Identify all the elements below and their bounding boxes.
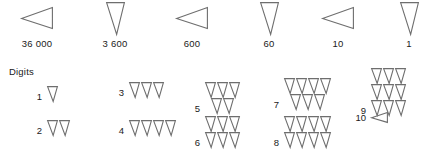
down-wedge-icon	[129, 82, 140, 98]
digit-glyph-group	[46, 86, 58, 102]
digit-glyph-group	[46, 120, 70, 136]
digit-glyph-row	[370, 112, 388, 123]
down-wedge-icon	[395, 68, 406, 84]
down-wedge-icon	[296, 132, 307, 148]
digit-entry: 6	[186, 116, 240, 148]
digit-glyph-group	[128, 120, 176, 136]
digit-entry: 10	[348, 112, 388, 123]
down-wedge-icon	[260, 2, 279, 35]
down-wedge-icon	[302, 94, 313, 110]
down-wedge-icon	[284, 132, 295, 148]
place-value-symbol	[232, 0, 306, 36]
place-value-cell: 1	[372, 0, 446, 58]
place-value-label: 600	[155, 38, 229, 50]
digit-glyph-row	[128, 120, 176, 136]
place-value-symbol	[372, 0, 446, 36]
digit-entry: 7	[265, 78, 331, 110]
down-wedge-icon	[229, 132, 240, 148]
place-value-label: 36 000	[0, 38, 74, 50]
down-wedge-icon	[296, 116, 307, 132]
down-wedge-icon	[47, 86, 58, 102]
place-value-row: 36 0003 60060060101	[0, 0, 446, 58]
digit-entry: 9	[348, 68, 406, 116]
left-wedge-icon	[176, 7, 208, 29]
place-value-label: 1	[372, 38, 446, 50]
left-wedge-icon	[322, 7, 354, 29]
digit-glyph-row	[46, 120, 70, 136]
place-value-cell: 3 600	[78, 0, 152, 58]
down-wedge-icon	[129, 120, 140, 136]
digit-glyph-row	[370, 84, 406, 100]
digit-number-label: 6	[186, 138, 200, 148]
down-wedge-icon	[308, 78, 319, 94]
down-wedge-icon	[314, 94, 325, 110]
digit-glyph-group	[204, 82, 240, 114]
digit-glyph-group	[370, 68, 406, 116]
down-wedge-icon	[141, 82, 152, 98]
down-wedge-icon	[400, 2, 419, 35]
down-wedge-icon	[229, 82, 240, 98]
digit-number-label: 1	[28, 92, 42, 102]
digit-glyph-group	[370, 112, 388, 123]
digit-number-label: 3	[110, 88, 124, 98]
down-wedge-icon	[320, 132, 331, 148]
digit-entry: 5	[186, 82, 240, 114]
down-wedge-icon	[141, 120, 152, 136]
digit-glyph-group	[283, 78, 331, 110]
down-wedge-icon	[205, 82, 216, 98]
down-wedge-icon	[106, 2, 125, 35]
digit-entry: 1	[28, 86, 58, 102]
digit-glyph-row	[370, 68, 406, 84]
place-value-symbol	[78, 0, 152, 36]
down-wedge-icon	[217, 132, 228, 148]
down-wedge-icon	[217, 82, 228, 98]
place-value-label: 10	[301, 38, 375, 50]
down-wedge-icon	[284, 116, 295, 132]
down-wedge-icon	[290, 94, 301, 110]
digit-glyph-group	[204, 116, 240, 148]
down-wedge-icon	[205, 132, 216, 148]
left-wedge-icon	[21, 7, 53, 29]
down-wedge-icon	[217, 116, 228, 132]
digits-heading: Digits	[9, 66, 34, 77]
down-wedge-icon	[205, 116, 216, 132]
digit-entry: 8	[265, 116, 331, 148]
down-wedge-icon	[153, 120, 164, 136]
down-wedge-icon	[223, 98, 234, 114]
digit-number-label: 7	[265, 100, 279, 110]
cuneiform-numeral-chart: 36 0003 60060060101 Digits 12345678910	[0, 0, 446, 159]
place-value-cell: 36 000	[0, 0, 74, 58]
down-wedge-icon	[371, 84, 382, 100]
place-value-symbol	[301, 0, 375, 36]
digit-glyph-group	[283, 116, 331, 148]
digits-section: Digits 12345678910	[0, 60, 446, 159]
digit-number-label: 10	[348, 113, 366, 123]
down-wedge-icon	[320, 116, 331, 132]
place-value-cell: 60	[232, 0, 306, 58]
down-wedge-icon	[47, 120, 58, 136]
place-value-symbol	[155, 0, 229, 36]
digit-glyph-row	[283, 116, 331, 132]
digit-glyph-row	[289, 94, 325, 110]
place-value-symbol	[0, 0, 74, 36]
down-wedge-icon	[308, 116, 319, 132]
digit-glyph-row	[204, 82, 240, 98]
digit-glyph-row	[283, 78, 331, 94]
down-wedge-icon	[229, 116, 240, 132]
down-wedge-icon	[395, 84, 406, 100]
left-wedge-icon	[371, 112, 388, 123]
digit-entry: 3	[110, 82, 164, 98]
digit-glyph-row	[128, 82, 164, 98]
down-wedge-icon	[308, 132, 319, 148]
digit-number-label: 5	[186, 104, 200, 114]
place-value-cell: 10	[301, 0, 375, 58]
place-value-cell: 600	[155, 0, 229, 58]
down-wedge-icon	[395, 100, 406, 116]
digit-glyph-group	[128, 82, 164, 98]
digit-glyph-row	[204, 116, 240, 132]
down-wedge-icon	[211, 98, 222, 114]
digit-number-label: 2	[28, 126, 42, 136]
place-value-label: 3 600	[78, 38, 152, 50]
digit-glyph-row	[204, 132, 240, 148]
digit-glyph-row	[283, 132, 331, 148]
